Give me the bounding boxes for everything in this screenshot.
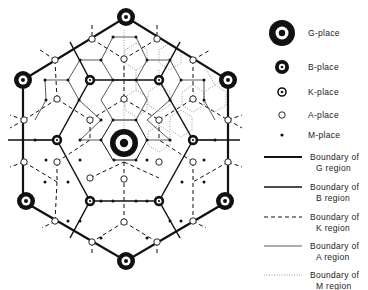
a-place: [121, 96, 127, 102]
legend-g-boundary: Boundary of G region: [264, 152, 359, 173]
a-place: [156, 117, 162, 123]
m-place: [203, 159, 206, 162]
legend-g-boundary-line2: G region: [316, 163, 351, 173]
g-place: [17, 192, 35, 210]
a-place: [225, 159, 231, 165]
a-place: [156, 159, 162, 165]
m-place: [67, 79, 70, 82]
legend-b-boundary-line2: B region: [316, 193, 350, 203]
b-place: [188, 135, 198, 145]
m-place: [79, 59, 82, 62]
a-place: [121, 219, 127, 225]
m-place: [112, 36, 115, 39]
legend-m-boundary-line2: M region: [316, 281, 351, 290]
a-place: [225, 117, 231, 123]
m-place: [79, 159, 82, 162]
a-place: [21, 159, 27, 165]
central-g-place: [110, 129, 138, 157]
a-place: [52, 57, 58, 63]
m-place: [135, 119, 138, 122]
a-place: [190, 57, 196, 63]
m-place: [135, 79, 138, 82]
legend-k-place: K-place: [278, 87, 339, 97]
m-place: [169, 220, 172, 223]
b-place: [85, 196, 95, 206]
g-places: [14, 8, 237, 270]
a-place: [190, 218, 196, 224]
m-place: [169, 59, 172, 62]
g-place: [216, 192, 234, 210]
a-place: [87, 175, 93, 181]
m-place: [44, 79, 47, 82]
m-place: [135, 159, 138, 162]
legend-b-boundary: Boundary of B region: [264, 182, 359, 203]
m-place: [146, 139, 149, 142]
a-place: [154, 36, 160, 42]
m-place: [169, 139, 172, 142]
a-place: [52, 218, 58, 224]
legend-a-boundary-line2: A region: [316, 252, 350, 262]
m-place: [100, 139, 103, 142]
m-place: [180, 220, 183, 223]
m-place: [203, 99, 206, 102]
m-place: [45, 99, 48, 102]
m-place: [100, 59, 103, 62]
a-place: [21, 117, 27, 123]
legend: G-place B-place K-place A-place M-place …: [264, 20, 359, 290]
legend-k-place-label: K-place: [308, 87, 339, 97]
legend-k-boundary-line1: Boundary of: [310, 212, 359, 222]
legend-a-place-label: A-place: [308, 110, 339, 120]
m-place: [180, 79, 183, 82]
m-place: [113, 159, 116, 162]
m-place: [79, 220, 82, 223]
g-place: [117, 252, 135, 270]
g-place: [117, 8, 135, 26]
m-place: [112, 200, 115, 203]
a-place: [121, 56, 127, 62]
a-place: [89, 239, 95, 245]
a-place: [87, 117, 93, 123]
central-place-diagram: G-place B-place K-place A-place M-place …: [0, 0, 368, 290]
m-place: [203, 79, 206, 82]
m-place: [78, 99, 81, 102]
legend-g-boundary-line1: Boundary of: [310, 152, 359, 162]
legend-a-boundary: Boundary of A region: [264, 241, 359, 262]
m-place: [44, 181, 47, 184]
legend-m-place-label: M-place: [308, 130, 340, 140]
m-place: [67, 181, 70, 184]
legend-b-place-label: B-place: [308, 62, 339, 72]
m-place: [135, 200, 138, 203]
m-place: [112, 119, 115, 122]
m-place: [100, 200, 103, 203]
m-place: [146, 237, 149, 240]
m-place: [146, 200, 149, 203]
m-place: [181, 181, 184, 184]
a-place: [190, 96, 196, 102]
legend-m-boundary-line1: Boundary of: [310, 270, 359, 280]
a-place: [154, 239, 160, 245]
legend-g-place-label: G-place: [308, 28, 340, 38]
m-place: [34, 139, 37, 142]
b-place: [154, 196, 164, 206]
legend-m-boundary: Boundary of M region: [264, 270, 359, 290]
a-place: [121, 176, 127, 182]
legend-m-place: M-place: [280, 130, 340, 140]
legend-k-boundary-line2: K region: [316, 223, 350, 233]
m-place: [169, 99, 172, 102]
m-place: [100, 237, 103, 240]
g-place: [219, 71, 237, 89]
m-place: [79, 139, 82, 142]
legend-k-boundary: Boundary of K region: [264, 212, 359, 233]
m-place: [45, 159, 48, 162]
m-place: [146, 59, 149, 62]
a-place: [190, 159, 196, 165]
legend-b-boundary-line1: Boundary of: [310, 182, 359, 192]
legend-a-boundary-line1: Boundary of: [310, 241, 359, 251]
legend-g-place: G-place: [269, 20, 340, 46]
legend-a-place: A-place: [279, 110, 339, 120]
b-place: [154, 75, 164, 85]
g-place: [14, 71, 32, 89]
b-place: [85, 75, 95, 85]
m-place: [67, 220, 70, 223]
a-place: [54, 159, 60, 165]
